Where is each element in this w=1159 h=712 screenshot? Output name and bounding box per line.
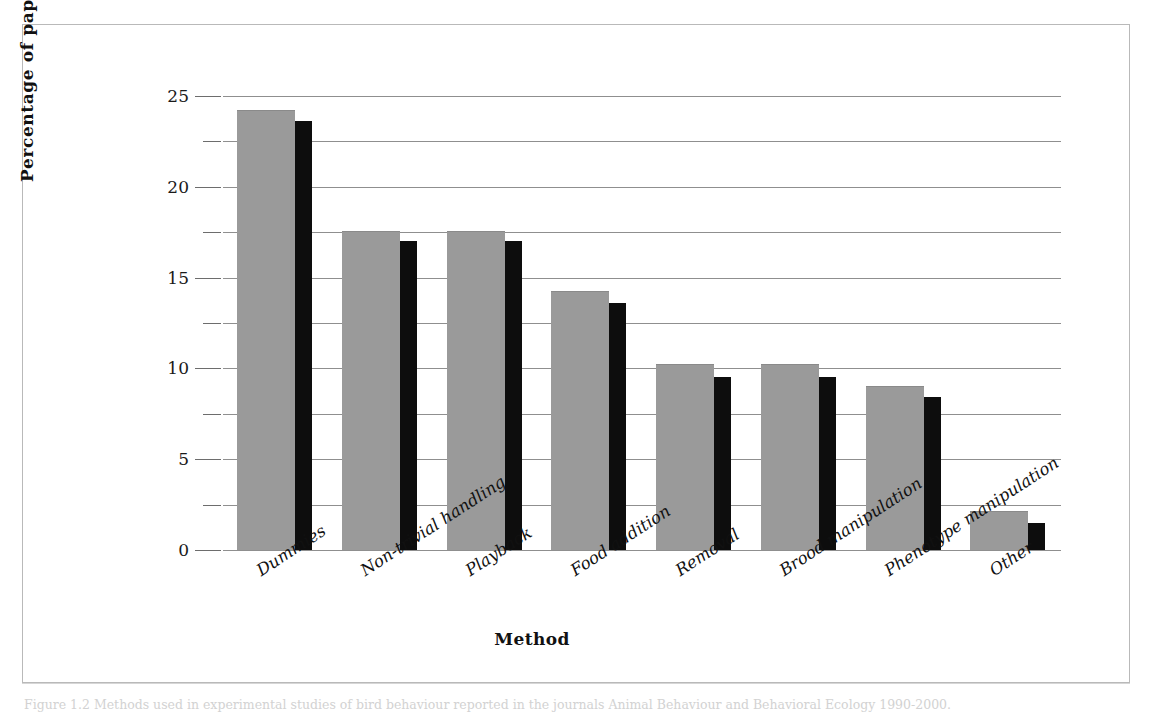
bar-group[interactable] <box>761 96 836 550</box>
bar-group[interactable] <box>656 96 731 550</box>
y-axis-tick-label: 10 <box>167 358 189 378</box>
y-axis-tick-label: 0 <box>178 540 189 560</box>
y-axis-tick-minor <box>203 141 221 142</box>
bar-secondary[interactable] <box>505 241 522 550</box>
bar-primary[interactable] <box>551 291 609 550</box>
y-axis-tick-major <box>195 550 221 551</box>
y-axis-tick-major <box>195 96 221 97</box>
y-axis-tick-minor <box>203 414 221 415</box>
y-axis-tick-major <box>195 368 221 369</box>
y-axis-tick-major <box>195 187 221 188</box>
bar-group[interactable] <box>237 96 312 550</box>
bar-secondary[interactable] <box>609 303 626 550</box>
y-axis-tick-label: 15 <box>167 268 189 288</box>
bar-group[interactable] <box>342 96 417 550</box>
bar-secondary[interactable] <box>819 377 836 550</box>
y-axis-tick-labels: 0510152025 <box>141 96 189 550</box>
y-axis-tick-label: 25 <box>167 86 189 106</box>
y-axis-tick-label: 20 <box>167 177 189 197</box>
y-axis-tick-minor <box>203 232 221 233</box>
y-axis-tick-label: 5 <box>178 449 189 469</box>
y-axis-title: Percentage of papers <box>17 0 37 205</box>
figure-caption: Figure 1.2 Methods used in experimental … <box>24 697 1134 712</box>
y-axis-tick-minor <box>203 505 221 506</box>
bar-primary[interactable] <box>342 231 400 550</box>
figure-frame: Percentage of papers 0510152025 DummiesN… <box>22 24 1130 683</box>
bar-secondary[interactable] <box>714 377 731 550</box>
x-axis-title-text: Method <box>494 629 569 649</box>
bar-group[interactable] <box>551 96 626 550</box>
bar-secondary[interactable] <box>295 121 312 550</box>
y-axis-tick-major <box>195 459 221 460</box>
x-axis-title: Method <box>23 629 1131 649</box>
bar-primary[interactable] <box>237 110 295 550</box>
bar-secondary[interactable] <box>400 241 417 550</box>
y-axis-tick-minor <box>203 323 221 324</box>
bar-primary[interactable] <box>761 364 819 550</box>
y-axis-tick-major <box>195 278 221 279</box>
bar-primary[interactable] <box>866 386 924 550</box>
plot-area <box>223 96 1061 550</box>
